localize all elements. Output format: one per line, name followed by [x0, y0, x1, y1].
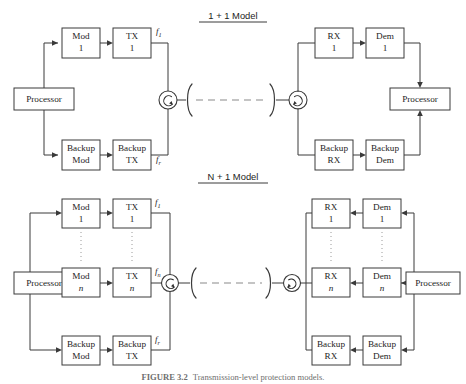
arrow-head	[401, 347, 407, 353]
circulator-left-nplus1[interactable]	[162, 275, 179, 292]
rx-box[interactable]: RX n	[312, 268, 350, 297]
rx-processor-nplus1[interactable]: Processor	[406, 272, 460, 294]
arrow-head	[107, 152, 113, 158]
figure-caption: FIGURE 3.2Transmission-level protection …	[141, 372, 324, 382]
mod-index: 1	[79, 214, 84, 224]
tx-box[interactable]: TX 1	[113, 199, 151, 228]
model-1plus1-tx-side: Processor Mod 1 TX 1 f1	[14, 26, 177, 170]
tx-index: 1	[130, 214, 135, 224]
dem-label: Dem	[373, 271, 391, 281]
backup-tx-index: TX	[126, 351, 139, 361]
rx-row-backup-nplus1: Backup RX Backup Dem	[312, 336, 414, 365]
rx-row-nth-nplus1: RX n Dem n	[312, 268, 407, 297]
dem-label: Dem	[373, 202, 391, 212]
backup-tx-box[interactable]: Backup TX	[113, 140, 151, 170]
mod-label: Mod	[72, 31, 90, 41]
rx-label: RX	[325, 271, 338, 281]
circulator-left-1plus1[interactable]	[159, 91, 177, 109]
model-nplus1-title: N + 1 Model	[198, 171, 268, 183]
tx-box[interactable]: TX n	[113, 268, 151, 297]
figure-container: 1 + 1 Model Processor Mod 1 TX 1	[0, 0, 466, 384]
backup-mod-label: Backup	[67, 143, 95, 153]
rx-box[interactable]: RX 1	[315, 28, 353, 58]
arrow-head	[107, 210, 113, 216]
dem-box[interactable]: Dem n	[363, 268, 401, 297]
tx-processor-label: Processor	[26, 94, 62, 104]
mod-box[interactable]: Mod 1	[62, 28, 100, 58]
rx-index: 1	[332, 43, 337, 53]
backup-dem-index: Dem	[376, 155, 394, 165]
rx-label: RX	[325, 202, 338, 212]
rx-processor-label: Processor	[402, 94, 438, 104]
mod-index: 1	[79, 43, 84, 53]
title-text-1plus1: 1 + 1 Model	[208, 10, 257, 21]
tx-index: n	[130, 283, 135, 293]
arrow-head	[350, 280, 356, 286]
mod-label: Mod	[72, 202, 90, 212]
tx-index: 1	[130, 43, 135, 53]
backup-rx-box[interactable]: Backup RX	[312, 336, 350, 365]
circulator-right-1plus1[interactable]	[289, 91, 307, 109]
tx-label: TX	[126, 202, 139, 212]
frequency-label-f1: f1	[155, 197, 161, 209]
arrow-head	[401, 210, 407, 216]
rx-row-primary-1plus1: RX 1 Dem 1	[298, 28, 423, 92]
backup-mod-box[interactable]: Backup Mod	[62, 336, 100, 365]
model-nplus1-tx-side: Processor Mod 1 TX 1 f1	[14, 197, 179, 365]
arrow-head	[360, 152, 366, 158]
tx-row-first-nplus1: Mod 1 TX 1 f1	[62, 197, 170, 275]
arrow-head	[360, 40, 366, 46]
model-nplus1-rx-side: RX 1 Dem 1 RX n	[284, 199, 461, 365]
backup-rx-box[interactable]: Backup RX	[315, 140, 353, 170]
arrow-head	[107, 347, 113, 353]
arrow-head	[56, 347, 62, 353]
rx-row-first-nplus1: RX 1 Dem 1	[312, 199, 414, 228]
backup-mod-index: Mod	[72, 351, 90, 361]
dem-index: n	[380, 283, 385, 293]
rx-label: RX	[328, 31, 341, 41]
tx-label: TX	[126, 271, 139, 281]
rx-processor-label: Processor	[415, 278, 451, 288]
fiber-connector-right-icon	[266, 268, 271, 298]
dem-box[interactable]: Dem 1	[366, 28, 404, 58]
mod-box[interactable]: Mod 1	[62, 199, 100, 228]
dem-index: 1	[380, 214, 385, 224]
frequency-label-fr: fr	[155, 334, 161, 346]
rx-index: 1	[329, 214, 334, 224]
fiber-connector-left-icon	[192, 268, 197, 298]
frequency-label-fr: fr	[156, 154, 162, 166]
backup-rx-index: RX	[328, 155, 341, 165]
frequency-label-fn: fn	[155, 266, 161, 278]
fiber-span-nplus1	[179, 268, 284, 298]
backup-dem-index: Dem	[373, 351, 391, 361]
mod-label: Mod	[72, 271, 90, 281]
backup-rx-label: Backup	[317, 339, 345, 349]
backup-mod-label: Backup	[67, 339, 95, 349]
backup-mod-box[interactable]: Backup Mod	[62, 140, 100, 170]
arrow-head	[350, 210, 356, 216]
mod-box[interactable]: Mod n	[62, 268, 100, 297]
arrow-head	[52, 40, 58, 46]
rx-index: n	[329, 283, 334, 293]
rx-box[interactable]: RX 1	[312, 199, 350, 228]
backup-dem-label: Backup	[368, 339, 396, 349]
dem-box[interactable]: Dem 1	[363, 199, 401, 228]
backup-dem-box[interactable]: Backup Dem	[363, 336, 401, 365]
tx-row-backup-nplus1: Backup Mod Backup TX fr	[62, 291, 170, 365]
arrow-head	[107, 40, 113, 46]
arrow-head	[107, 280, 113, 286]
caption-text: Transmission-level protection models.	[193, 372, 325, 382]
tx-processor-1plus1[interactable]: Processor	[14, 88, 74, 110]
backup-rx-label: Backup	[320, 143, 348, 153]
arrow-head	[56, 210, 62, 216]
backup-rx-index: RX	[325, 351, 338, 361]
backup-dem-box[interactable]: Backup Dem	[366, 140, 404, 170]
arrow-head	[417, 82, 423, 88]
backup-tx-box[interactable]: Backup TX	[113, 336, 151, 365]
model-1plus1-rx-side: RX 1 Dem 1 Processor Backup RX	[289, 28, 450, 170]
tx-box[interactable]: TX 1	[113, 28, 151, 58]
rx-processor-1plus1[interactable]: Processor	[390, 88, 450, 110]
backup-mod-index: Mod	[72, 155, 90, 165]
circulator-right-nplus1[interactable]	[284, 275, 301, 292]
arrow-head	[350, 347, 356, 353]
